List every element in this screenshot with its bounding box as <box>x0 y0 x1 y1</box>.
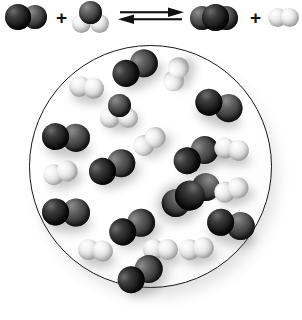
atom-oxygen <box>108 94 131 117</box>
molecule-co <box>39 196 92 229</box>
molecule-h2 <box>77 237 117 265</box>
molecule-h2o <box>100 94 140 130</box>
molecule-h2 <box>212 135 254 165</box>
molecule-h2 <box>211 173 255 208</box>
molecule-h2 <box>178 234 219 263</box>
molecule-h2 <box>159 51 195 95</box>
molecule-co <box>105 43 165 94</box>
figure-root: + + <box>0 0 302 320</box>
molecule-co <box>39 120 93 154</box>
molecule-h2 <box>41 156 84 189</box>
molecule-co <box>190 83 249 128</box>
molecule-co <box>82 143 141 190</box>
vessel-contents <box>0 0 302 320</box>
